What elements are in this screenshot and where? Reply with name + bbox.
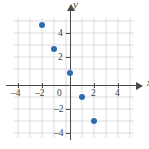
grid-lines — [14, 18, 134, 138]
x-axis-arrow-icon — [136, 82, 143, 90]
x-tick-label-4: 4 — [115, 88, 120, 98]
x-tick-label-neg2: –2 — [35, 88, 45, 98]
y-tick-label-neg4: –4 — [54, 128, 64, 138]
x-tick-label-2: 2 — [91, 88, 96, 98]
y-tick-label-2: 2 — [58, 52, 63, 62]
plot-area: x y –4 –2 2 4 4 2 –2 –4 0 — [14, 18, 134, 138]
y-tick-label-4: 4 — [58, 28, 63, 38]
origin-label: 0 — [57, 88, 62, 98]
data-point — [67, 70, 73, 76]
data-point — [91, 118, 97, 124]
x-axis-label: x — [147, 76, 149, 88]
x-tick-label-neg4: –4 — [11, 88, 21, 98]
y-tick-mark — [66, 33, 71, 34]
y-tick-mark — [66, 109, 71, 110]
y-tick-mark — [66, 57, 71, 58]
y-axis-label: y — [73, 0, 78, 10]
y-tick-mark — [66, 133, 71, 134]
data-point — [51, 46, 57, 52]
coordinate-plane-figure: x y –4 –2 2 4 4 2 –2 –4 0 — [0, 0, 149, 149]
data-point — [79, 94, 85, 100]
y-tick-label-neg2: –2 — [54, 104, 64, 114]
data-point — [39, 22, 45, 28]
